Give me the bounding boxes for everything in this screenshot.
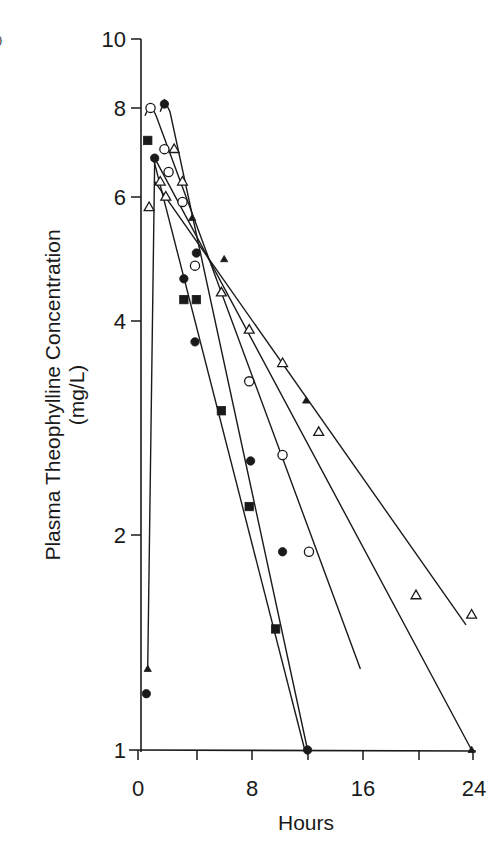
data-point-open-circle — [190, 261, 199, 270]
data-point-open-circle — [278, 450, 287, 459]
data-point-filled-triangle — [468, 746, 475, 752]
theophylline-chart: ) 10 8 6 4 2 1 0 8 16 24 Hours Plasma — [0, 0, 504, 850]
data-point-filled-square — [245, 502, 253, 510]
x-axis — [129, 750, 476, 760]
data-point-open-triangle — [155, 176, 165, 185]
y-tick-2: 2 — [114, 523, 126, 548]
data-point-filled-square — [217, 407, 225, 415]
data-point-open-circle — [304, 547, 313, 556]
data-point-filled-circle — [246, 457, 254, 465]
data-point-filled-circle — [303, 746, 311, 754]
data-markers — [142, 100, 476, 754]
data-point-filled-triangle — [144, 665, 151, 671]
data-point-filled-circle — [192, 249, 200, 257]
fit-line-open-circle — [145, 104, 361, 669]
y-tick-labels: 10 8 6 4 2 1 — [102, 27, 126, 763]
y-axis — [131, 39, 141, 752]
data-point-open-triangle — [144, 202, 154, 211]
data-point-filled-square — [271, 625, 279, 633]
data-point-filled-square — [144, 136, 152, 144]
y-tick-8: 8 — [114, 96, 126, 121]
data-point-open-circle — [178, 197, 187, 206]
data-point-open-triangle — [314, 427, 324, 436]
data-point-open-triangle — [411, 590, 421, 599]
data-point-open-circle — [160, 145, 169, 154]
data-point-filled-triangle — [221, 255, 228, 261]
data-point-open-circle — [164, 167, 173, 176]
data-point-filled-circle — [180, 275, 188, 283]
data-point-open-circle — [146, 103, 155, 112]
data-point-filled-circle — [160, 100, 168, 108]
y-axis-title-line1: Plasma Theophylline Concentration — [41, 229, 64, 560]
fit-line-open-triangle — [155, 182, 466, 625]
data-point-filled-circle — [142, 690, 150, 698]
x-tick-8: 8 — [246, 776, 258, 801]
x-axis-title: Hours — [278, 811, 334, 834]
x-tick-16: 16 — [351, 776, 375, 801]
y-tick-6: 6 — [114, 185, 126, 210]
y-axis-title-line2: (mg/L) — [65, 365, 88, 426]
cropped-caption-edge: ) — [0, 33, 2, 47]
x-tick-labels: 0 8 16 24 — [132, 776, 486, 801]
x-tick-24: 24 — [462, 776, 486, 801]
data-point-filled-square — [192, 295, 200, 303]
svg-text:): ) — [0, 33, 2, 47]
x-tick-0: 0 — [132, 776, 144, 801]
data-point-open-circle — [245, 377, 254, 386]
data-point-filled-triangle — [189, 214, 196, 220]
data-point-filled-square — [180, 295, 188, 303]
y-tick-4: 4 — [114, 309, 126, 334]
data-point-filled-circle — [278, 548, 286, 556]
fit-line-filled-triangle — [148, 158, 472, 750]
fit-lines — [145, 100, 472, 750]
y-tick-10: 10 — [102, 27, 126, 52]
y-axis-title: Plasma Theophylline Concentration (mg/L) — [41, 229, 88, 560]
y-tick-1: 1 — [114, 738, 126, 763]
data-point-filled-circle — [191, 338, 199, 346]
data-point-open-triangle — [467, 609, 477, 618]
